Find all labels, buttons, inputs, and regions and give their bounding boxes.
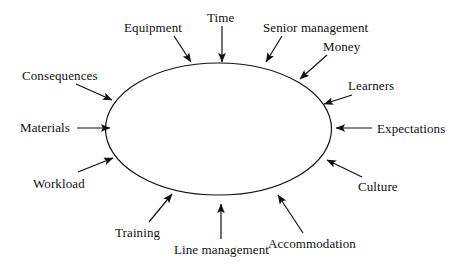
arrow-money	[300, 55, 327, 79]
arrow-workload	[78, 158, 113, 172]
label-expectations: Expectations	[377, 122, 445, 135]
arrow-layer	[76, 26, 372, 239]
arrow-senior-management	[266, 36, 282, 62]
arrow-training	[149, 194, 172, 222]
label-learners: Learners	[348, 79, 394, 92]
label-time: Time	[207, 11, 234, 24]
ellipse-layer	[106, 63, 332, 195]
label-senior-management: Senior management	[263, 21, 368, 34]
label-culture: Culture	[358, 180, 398, 193]
label-workload: Workload	[33, 177, 85, 190]
arrow-learners	[324, 95, 352, 104]
diagram-canvas: EquipmentTimeSenior managementMoneyLearn…	[0, 0, 461, 266]
label-accommodation: Accommodation	[268, 237, 356, 250]
central-ellipse	[106, 63, 332, 195]
arrow-accommodation	[278, 195, 303, 233]
label-line-management: Line management	[174, 243, 269, 256]
label-consequences: Consequences	[22, 69, 98, 82]
label-equipment: Equipment	[124, 21, 182, 34]
label-money: Money	[323, 40, 360, 53]
label-training: Training	[115, 226, 160, 239]
arrow-culture	[327, 160, 362, 177]
arrow-equipment	[174, 36, 191, 62]
label-materials: Materials	[20, 121, 70, 134]
arrow-consequences	[76, 84, 112, 100]
